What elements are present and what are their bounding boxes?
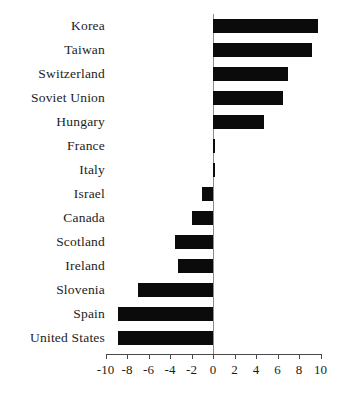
bar-track: [0, 254, 346, 278]
x-axis-tick: [278, 354, 279, 359]
bar-track: [0, 326, 346, 350]
bar: [175, 235, 213, 249]
bar: [202, 187, 213, 201]
bar-row: Scotland: [0, 230, 346, 254]
x-axis-tick: [235, 354, 236, 359]
bar: [213, 163, 215, 177]
bar: [118, 307, 213, 321]
bar-row: Slovenia: [0, 278, 346, 302]
x-axis-tick: [192, 354, 193, 359]
bar: [213, 19, 318, 33]
bar-track: [0, 182, 346, 206]
bar-track: [0, 38, 346, 62]
bar-track: [0, 62, 346, 86]
x-axis-tick-label: -4: [165, 362, 176, 378]
plot-area: KoreaTaiwanSwitzerlandSoviet UnionHungar…: [0, 14, 346, 350]
x-axis-tick: [106, 354, 107, 359]
bar-track: [0, 278, 346, 302]
bar-track: [0, 158, 346, 182]
bar-row: Canada: [0, 206, 346, 230]
bar: [213, 43, 312, 57]
bar-row: Hungary: [0, 110, 346, 134]
x-axis-tick-label: -6: [143, 362, 154, 378]
bar-track: [0, 206, 346, 230]
bar-chart: KoreaTaiwanSwitzerlandSoviet UnionHungar…: [0, 0, 346, 401]
x-axis-tick: [213, 354, 214, 359]
bar-track: [0, 110, 346, 134]
bar-row: Korea: [0, 14, 346, 38]
bar-row: Soviet Union: [0, 86, 346, 110]
bar: [192, 211, 214, 225]
x-axis-tick-label: -2: [186, 362, 197, 378]
x-axis-tick-label: -10: [97, 362, 114, 378]
bar: [213, 91, 283, 105]
x-axis-tick-label: 8: [296, 362, 303, 378]
bar-row: Spain: [0, 302, 346, 326]
x-axis-tick-label: 10: [314, 362, 327, 378]
bar-track: [0, 134, 346, 158]
bar: [178, 259, 213, 273]
bar-row: France: [0, 134, 346, 158]
bar: [138, 283, 213, 297]
bar-row: Ireland: [0, 254, 346, 278]
bar-row: Italy: [0, 158, 346, 182]
bar-row: Israel: [0, 182, 346, 206]
x-axis-tick-label: -8: [122, 362, 133, 378]
bar-track: [0, 302, 346, 326]
x-axis-tick-label: 4: [253, 362, 260, 378]
bar-row: United States: [0, 326, 346, 350]
x-axis: -10-8-6-4-20246810: [0, 352, 346, 401]
bar-track: [0, 14, 346, 38]
x-axis-tick-label: 6: [274, 362, 281, 378]
x-axis-tick: [149, 354, 150, 359]
x-axis-tick: [321, 354, 322, 359]
x-axis-tick-label: 0: [210, 362, 217, 378]
bar: [118, 331, 213, 345]
x-axis-tick: [256, 354, 257, 359]
bar-track: [0, 230, 346, 254]
bar: [213, 67, 288, 81]
bar: [213, 115, 264, 129]
bar-row: Taiwan: [0, 38, 346, 62]
x-axis-tick: [170, 354, 171, 359]
bar-row: Switzerland: [0, 62, 346, 86]
bar-track: [0, 86, 346, 110]
x-axis-tick: [299, 354, 300, 359]
x-axis-tick: [127, 354, 128, 359]
bar: [213, 139, 215, 153]
x-axis-tick-label: 2: [231, 362, 238, 378]
